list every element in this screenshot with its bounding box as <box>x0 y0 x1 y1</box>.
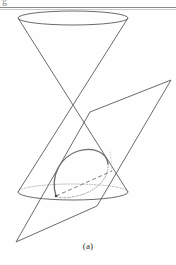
conic-section-figure <box>0 0 176 265</box>
bottom-ellipse-back-arc-dotted <box>18 184 128 192</box>
hidden-vertical-dotted <box>110 150 112 171</box>
top-rim-ellipse <box>18 11 128 25</box>
conic-section-ellipse-visible-arc <box>54 149 108 196</box>
cutting-plane-parallelogram <box>16 80 171 242</box>
hidden-chord-dashed <box>56 171 112 196</box>
figure-caption: (a) <box>0 241 176 251</box>
tangency-point-marker <box>55 195 58 198</box>
bottom-ellipse-front-arc <box>18 192 128 200</box>
figure-page: g (a) <box>0 0 176 265</box>
